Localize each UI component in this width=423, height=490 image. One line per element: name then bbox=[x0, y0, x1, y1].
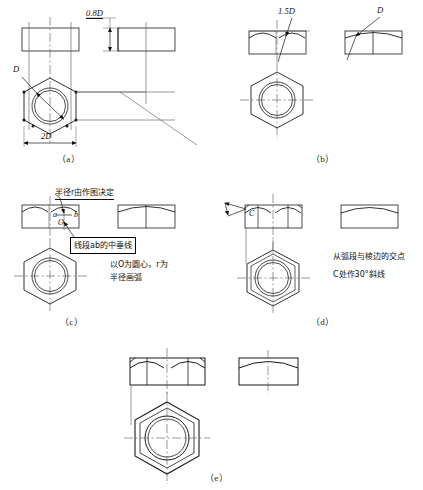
panel-b-group bbox=[240, 17, 402, 138]
panel-e-right-view bbox=[239, 358, 298, 385]
point-label-b: b bbox=[74, 210, 78, 219]
dimension-label-0-8d: 0.8D bbox=[86, 8, 103, 19]
annotation-bevel-note-line1: 从弧段与棱边的交点 bbox=[333, 250, 405, 263]
panel-a-projection-construction bbox=[76, 22, 197, 145]
point-label-o: O bbox=[58, 218, 64, 227]
panel-e-front-view bbox=[130, 358, 205, 385]
annotation-radius-note: 半径r由作图决定 bbox=[55, 186, 114, 200]
point-label-a: a bbox=[53, 210, 57, 219]
panel-d-bevel-lines bbox=[245, 205, 302, 208]
panel-d-centerlines bbox=[237, 240, 311, 314]
panel-c-front-view bbox=[22, 205, 79, 228]
panel-caption-a: （a） bbox=[57, 152, 80, 165]
panel-a-right-view bbox=[118, 28, 175, 51]
dimension-label-2d: 2D bbox=[41, 131, 51, 141]
panel-caption-c: （c） bbox=[60, 315, 83, 328]
panel-caption-b: （b） bbox=[311, 152, 334, 165]
panel-b-front-view bbox=[249, 31, 306, 54]
panel-a-height-dimension bbox=[86, 18, 120, 51]
drawing-canvas bbox=[0, 0, 423, 490]
annotation-bisector-note: 线段ab的中垂线 bbox=[70, 237, 136, 254]
panel-e-group bbox=[124, 348, 298, 484]
panel-a-group bbox=[22, 17, 197, 147]
panel-b-radius-leader-right bbox=[347, 17, 380, 60]
annotation-arc-note-line1: 以O为圆心，r为 bbox=[110, 258, 168, 271]
panel-d-angle-leader bbox=[225, 203, 246, 216]
panel-caption-d: （d） bbox=[311, 315, 334, 328]
panel-a-diameter-leader bbox=[22, 77, 64, 119]
annotation-bevel-note-line2: C处作30°斜线 bbox=[333, 268, 385, 281]
panel-d-right-view bbox=[341, 205, 398, 228]
panel-c-right-view bbox=[118, 205, 175, 228]
dimension-label-1-5d: 1.5D bbox=[278, 6, 295, 16]
panel-c-bisector-leader bbox=[64, 222, 74, 237]
point-label-c: C bbox=[249, 209, 254, 218]
dimension-label-d: D bbox=[13, 64, 19, 74]
panel-b-radius-leader-left bbox=[249, 18, 310, 62]
panel-e-centerlines bbox=[124, 392, 210, 484]
annotation-arc-note-line2: 半径画弧 bbox=[110, 271, 142, 284]
panel-a-front-view bbox=[22, 28, 79, 51]
dimension-label-d-right: D bbox=[377, 5, 383, 15]
panel-caption-e: （e） bbox=[205, 471, 228, 484]
technical-drawing-sheet: 0.8D 2D D 1.5D D 半径r由作图决定 线段ab的中垂线 以O为圆心… bbox=[0, 0, 423, 490]
